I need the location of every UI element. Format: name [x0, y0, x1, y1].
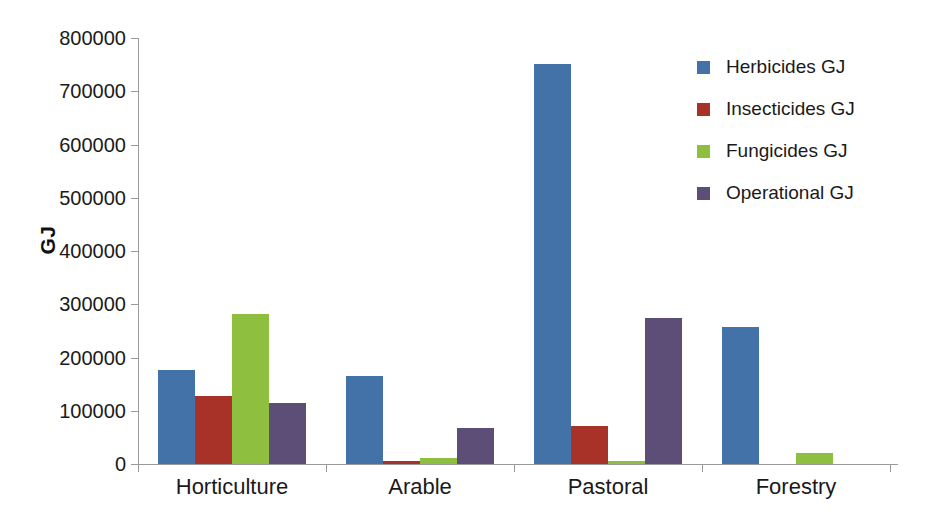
y-axis-tick-mark: [131, 198, 138, 199]
y-axis-tick-label: 300000: [0, 293, 138, 316]
legend-label: Insecticides GJ: [726, 98, 855, 120]
legend-label: Herbicides GJ: [726, 56, 845, 78]
bar[interactable]: [383, 461, 420, 464]
x-axis-separator-tick: [138, 464, 139, 472]
bar[interactable]: [232, 314, 269, 464]
y-axis-tick-label: 100000: [0, 399, 138, 422]
x-axis-separator-tick: [326, 464, 327, 472]
bar-group: [326, 38, 514, 464]
bar[interactable]: [571, 426, 608, 464]
bar[interactable]: [158, 370, 195, 464]
chart-legend: Herbicides GJInsecticides GJFungicides G…: [697, 48, 917, 216]
legend-color-swatch: [697, 61, 710, 74]
x-axis-category-label: Pastoral: [514, 474, 702, 500]
bar[interactable]: [645, 318, 682, 464]
bar-group-bars: [138, 38, 326, 464]
bar[interactable]: [534, 64, 571, 464]
y-axis-tick-mark: [131, 464, 138, 465]
x-axis-separator-tick: [702, 464, 703, 472]
bar-group-bars: [326, 38, 514, 464]
y-axis-tick-mark: [131, 145, 138, 146]
y-axis-tick-label: 700000: [0, 80, 138, 103]
x-axis-category-label: Arable: [326, 474, 514, 500]
y-axis-tick-mark: [131, 411, 138, 412]
bar-group: [514, 38, 702, 464]
y-axis-tick-mark: [131, 304, 138, 305]
x-axis-separator-tick: [890, 464, 891, 472]
y-axis-tick-label: 600000: [0, 133, 138, 156]
x-axis-separator-tick: [514, 464, 515, 472]
bar-group: [138, 38, 326, 464]
x-axis-category-label: Horticulture: [138, 474, 326, 500]
x-axis-category-label: Forestry: [702, 474, 890, 500]
legend-color-swatch: [697, 103, 710, 116]
bar[interactable]: [420, 458, 457, 464]
bar[interactable]: [457, 428, 494, 464]
y-axis-tick-label: 500000: [0, 186, 138, 209]
bar[interactable]: [722, 327, 759, 464]
y-axis-tick-mark: [131, 251, 138, 252]
y-axis-tick-label: 0: [0, 453, 138, 476]
bar-group-bars: [514, 38, 702, 464]
legend-item[interactable]: Operational GJ: [697, 174, 917, 212]
y-axis-tick-mark: [131, 91, 138, 92]
x-axis-labels: HorticultureArablePastoralForestry: [138, 474, 890, 500]
y-axis-tick-label: 800000: [0, 27, 138, 50]
x-axis-line: [138, 464, 898, 465]
y-axis-tick-label: 400000: [0, 240, 138, 263]
legend-item[interactable]: Herbicides GJ: [697, 48, 917, 86]
bar[interactable]: [346, 376, 383, 464]
legend-label: Fungicides GJ: [726, 140, 847, 162]
legend-color-swatch: [697, 145, 710, 158]
legend-item[interactable]: Insecticides GJ: [697, 90, 917, 128]
bar[interactable]: [796, 453, 833, 464]
y-axis-tick-label: 200000: [0, 346, 138, 369]
bar[interactable]: [608, 461, 645, 464]
legend-color-swatch: [697, 187, 710, 200]
legend-item[interactable]: Fungicides GJ: [697, 132, 917, 170]
y-axis-tick-mark: [131, 358, 138, 359]
legend-label: Operational GJ: [726, 182, 854, 204]
bar-chart: GJ 8000007000006000005000004000003000002…: [0, 0, 932, 529]
bar[interactable]: [269, 403, 306, 464]
y-axis-tick-mark: [131, 38, 138, 39]
bar[interactable]: [195, 396, 232, 464]
